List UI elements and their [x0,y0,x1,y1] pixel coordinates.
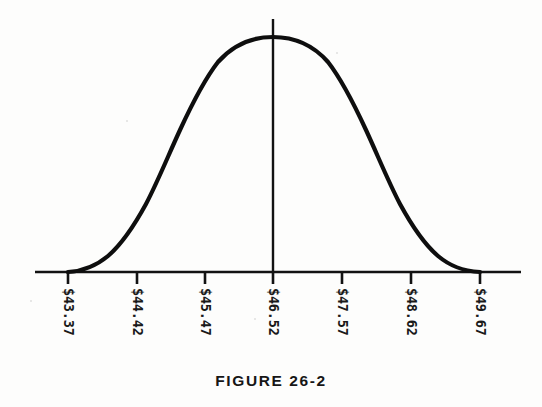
scan-speck [30,300,32,302]
tick-label-5: $47.57 [336,288,350,336]
scan-speck [336,52,338,54]
tick-label-6: $48.62 [405,288,419,336]
figure-caption: FIGURE 26-2 [0,372,542,390]
tick-label-3: $45.47 [199,288,213,336]
tick-label-4: $46.52 [267,288,281,336]
tick-label-7: $49.67 [474,288,488,336]
x-axis-ticks [68,272,480,284]
distribution-plot [0,0,542,407]
figure-panel: $43.37 $44.42 $45.47 $46.52 $47.57 $48.6… [0,0,542,407]
scan-speck [126,120,128,122]
tick-label-1: $43.37 [62,288,76,336]
tick-label-2: $44.42 [131,288,145,336]
scan-speck [254,318,256,320]
